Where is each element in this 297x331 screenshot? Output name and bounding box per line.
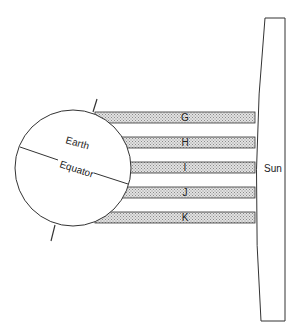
band-g xyxy=(95,112,255,123)
band-label-h: H xyxy=(181,137,188,148)
axis-south-tick xyxy=(51,225,55,241)
band-label-g: G xyxy=(181,112,189,123)
band-label-j: J xyxy=(183,187,188,198)
band-k xyxy=(95,212,255,223)
band-label-i: I xyxy=(184,162,187,173)
axis-north-tick xyxy=(93,99,97,112)
earth-sun-diagram: Sun Equator Earth G H I J K xyxy=(0,0,297,331)
sun-label: Sun xyxy=(264,163,282,174)
band-label-k: K xyxy=(182,212,189,223)
